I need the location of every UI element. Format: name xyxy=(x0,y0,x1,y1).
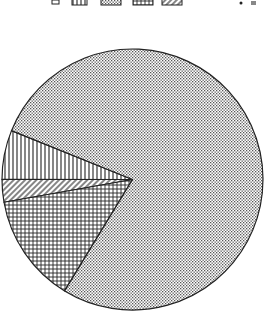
legend-swatch-grid xyxy=(133,0,153,5)
pie-chart xyxy=(0,0,266,324)
chart-legend xyxy=(52,0,256,5)
legend-cropped-text xyxy=(251,1,256,5)
legend-swatch-dots xyxy=(101,0,121,5)
legend-swatch-vertical xyxy=(72,0,87,5)
pie-slices xyxy=(2,49,263,310)
legend-bullet-icon xyxy=(240,2,243,5)
legend-cropped-glyph xyxy=(52,0,59,4)
legend-swatch-diagonal xyxy=(162,0,182,5)
